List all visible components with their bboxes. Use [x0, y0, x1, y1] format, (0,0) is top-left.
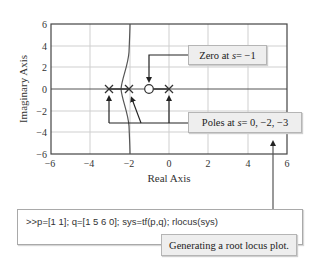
zero-callout-suffix: = −1 — [236, 50, 256, 61]
poles-callout: Poles at s = 0, −2, −3 — [188, 112, 302, 133]
svg-text:6: 6 — [285, 158, 290, 169]
zero-callout-prefix: Zero at — [199, 50, 229, 61]
svg-text:−2: −2 — [124, 158, 135, 169]
svg-text:−4: −4 — [84, 158, 95, 169]
zero-marker — [145, 85, 154, 94]
x-tick-labels: −6 −4 −2 0 2 4 6 — [45, 158, 290, 169]
svg-text:2: 2 — [42, 62, 47, 73]
locus-branch-upper — [121, 24, 130, 89]
command-text[interactable]: >>p=[1 1]; q=[1 5 6 0]; sys=tf(p,q); rlo… — [26, 216, 218, 227]
x-axis-label: Real Axis — [147, 172, 190, 184]
locus-branch-lower — [121, 89, 130, 154]
svg-text:4: 4 — [246, 158, 251, 169]
svg-text:0: 0 — [42, 84, 47, 95]
svg-text:−4: −4 — [36, 127, 47, 138]
svg-text:6: 6 — [42, 19, 47, 30]
caption-callout: Generating a root locus plot. — [161, 234, 297, 256]
svg-text:0: 0 — [167, 158, 172, 169]
svg-text:−2: −2 — [36, 106, 47, 117]
y-axis-label: Imaginary Axis — [17, 55, 29, 123]
y-tick-labels: 6 4 2 0 −2 −4 −6 — [36, 19, 47, 160]
poles-callout-prefix: Poles at — [202, 117, 235, 128]
svg-text:4: 4 — [42, 41, 47, 52]
poles-callout-suffix: = 0, −2, −3 — [242, 117, 289, 128]
svg-text:−6: −6 — [45, 158, 56, 169]
zero-callout: Zero at s = −1 — [188, 45, 267, 65]
svg-text:2: 2 — [206, 158, 211, 169]
